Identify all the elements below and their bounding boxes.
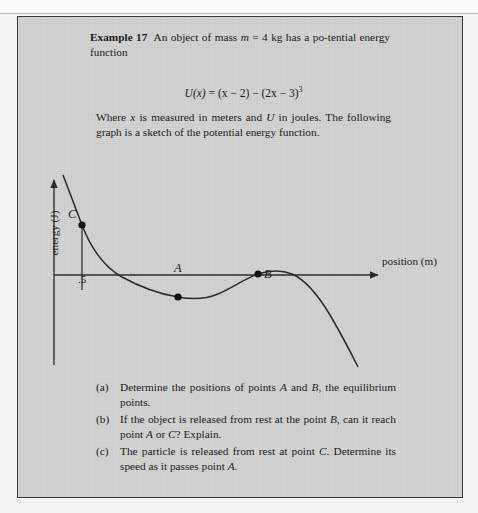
example-content: Example 17 An object of mass m = 4 kg ha… [18, 17, 462, 497]
question-marker: (c) [96, 444, 118, 459]
y-axis-label: energy (J) [48, 193, 60, 273]
question-text: Determine the positions of points A and … [120, 381, 396, 408]
point-b-marker [254, 270, 261, 277]
where-text-b: is measured in meters and [135, 111, 266, 123]
question-marker: (a) [96, 380, 118, 395]
example-statement-part1: An object of mass [154, 31, 241, 43]
question-symbol: A [146, 428, 153, 440]
question-item: (b)If the object is released from rest a… [96, 412, 396, 443]
example-box: Example 17 An object of mass m = 4 kg ha… [17, 16, 463, 498]
question-text: If the object is released from rest at t… [120, 413, 396, 440]
question-text-run: and [287, 381, 312, 393]
potential-energy-graph: energy (J) position (m) .5 C A B [18, 167, 463, 372]
point-a-label: A [174, 261, 182, 276]
point-c-marker [78, 221, 85, 228]
question-text-run: ? Explain. [176, 428, 222, 440]
potential-energy-formula: U(x) = (x − 2) − (2x − 3)3 [96, 85, 391, 99]
formula-body: = (x − 2) − (2x − 3) [206, 87, 299, 99]
example-label: Example 17 [90, 31, 147, 43]
question-symbol: C [168, 428, 176, 440]
question-symbol: A [228, 460, 235, 472]
x-axis-label: position (m) [382, 255, 437, 267]
graph-svg [18, 167, 463, 372]
example-statement: Example 17 An object of mass m = 4 kg ha… [90, 30, 390, 60]
potential-energy-curve [63, 175, 358, 367]
ghost-text-left: · · [30, 0, 38, 4]
question-text: The particle is released from rest at po… [120, 445, 396, 472]
question-symbol: A [280, 381, 287, 393]
page-top-remnant: · · [0, 0, 478, 14]
question-text-run: The particle is released from rest at po… [120, 445, 319, 457]
point-b-label: B [264, 267, 272, 282]
question-text-run: If the object is released from rest at t… [120, 413, 330, 425]
formula-variable: (x) [193, 87, 206, 99]
question-symbol: B [330, 413, 337, 425]
question-text-run: or [153, 428, 168, 440]
units-description: Where x is measured in meters and U in j… [96, 110, 391, 140]
where-text-a: Where [96, 111, 130, 123]
page-top-rule [0, 13, 478, 14]
question-list: (a)Determine the positions of points A a… [96, 380, 396, 474]
formula-exponent: 3 [299, 85, 303, 94]
question-text-run: Determine the positions of points [120, 381, 280, 393]
question-item: (c)The particle is released from rest at… [96, 444, 396, 475]
point-a-marker [174, 293, 181, 300]
x-axis-tick-label: .5 [78, 273, 86, 285]
question-text-run: . [235, 460, 238, 472]
point-c-label: C [68, 207, 76, 222]
question-marker: (b) [96, 412, 118, 427]
formula-function-name: U [185, 87, 193, 99]
mass-symbol: m [241, 31, 249, 43]
question-item: (a)Determine the positions of points A a… [96, 380, 396, 411]
